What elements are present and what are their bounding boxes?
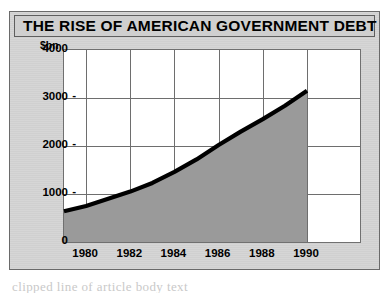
x-tick-label-1984: 1984 <box>161 248 187 260</box>
y-tick-label-3000: 3000 <box>42 91 68 103</box>
y-tick-dash-1000: - <box>72 186 76 198</box>
chart-figure-frame: THE RISE OF AMERICAN GOVERNMENT DEBT $bn… <box>9 11 380 270</box>
y-tick-dash-3000: - <box>72 90 76 102</box>
x-tick-label-1982: 1982 <box>117 248 143 260</box>
y-axis-tick-labels: 01000-2000-3000-4000 <box>24 12 68 271</box>
x-tick-label-1988: 1988 <box>249 248 275 260</box>
y-tick-label-2000: 2000 <box>42 139 68 151</box>
chart-page: THE RISE OF AMERICAN GOVERNMENT DEBT $bn… <box>0 0 391 293</box>
data-series-layer <box>64 50 360 242</box>
x-tick-label-1980: 1980 <box>72 248 98 260</box>
plot-area <box>63 49 361 243</box>
x-tick-label-1990: 1990 <box>293 248 319 260</box>
y-tick-label-0: 0 <box>62 235 68 247</box>
y-tick-label-4000: 4000 <box>42 43 68 55</box>
chart-title-bar: THE RISE OF AMERICAN GOVERNMENT DEBT <box>14 15 375 37</box>
y-tick-label-1000: 1000 <box>42 187 68 199</box>
y-tick-dash-2000: - <box>72 138 76 150</box>
chart-title: THE RISE OF AMERICAN GOVERNMENT DEBT <box>15 18 377 34</box>
x-tick-label-1986: 1986 <box>205 248 231 260</box>
article-body-text-clipped: clipped line of article body text <box>12 279 379 293</box>
